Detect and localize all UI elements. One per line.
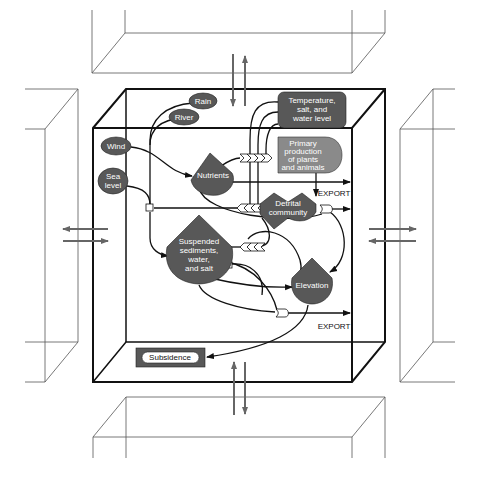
forcing-wind: Wind — [101, 137, 131, 155]
forcing-river: River — [169, 109, 199, 125]
exchange-arrows-right — [369, 229, 416, 241]
node-subsidence: Subsidence — [136, 348, 205, 367]
temperature-label-3: water level — [292, 114, 331, 123]
node-suspended-sediments: Suspended sediments, water, and salt — [166, 215, 232, 284]
nutrients-label: Nutrients — [197, 171, 229, 180]
export-label-bottom: EXPORT — [318, 322, 351, 331]
node-nutrients: Nutrients — [191, 153, 233, 195]
switch-left — [146, 204, 153, 211]
detrital-label-2: community — [269, 208, 308, 217]
suspended-label-4: and salt — [185, 264, 214, 273]
sea-level-label-2: level — [105, 181, 122, 190]
rain-label: Rain — [195, 97, 211, 106]
elevation-label: Elevation — [296, 281, 329, 290]
suspended-label-2: sediments, — [180, 246, 219, 255]
forcing-sea-level: Sea level — [98, 168, 128, 194]
gate-detrital-right — [320, 205, 332, 213]
suspended-label-1: Suspended — [179, 237, 219, 246]
gate-bottom-export — [276, 309, 288, 317]
exchange-arrows-bottom — [234, 362, 245, 415]
sea-level-label-1: Sea — [106, 172, 121, 181]
forcing-rain: Rain — [189, 93, 217, 109]
wind-label: Wind — [107, 142, 125, 151]
temperature-label-1: Temperature, — [288, 96, 335, 105]
export-label-top: EXPORT — [318, 189, 351, 198]
node-detrital-community: Detrital community — [260, 193, 316, 229]
gate-primary — [240, 154, 272, 162]
adjacent-box-right — [400, 89, 455, 382]
primary-label-4: and animals — [281, 163, 324, 172]
exchange-arrows-left — [63, 229, 108, 241]
river-label: River — [175, 113, 194, 122]
adjacent-box-bottom — [93, 397, 385, 458]
node-primary-production: Primary production of plants and animals — [278, 137, 342, 173]
central-compartment-cube — [93, 89, 385, 382]
temperature-label-2: salt, and — [297, 105, 327, 114]
subsidence-label: Subsidence — [149, 353, 191, 362]
detrital-label-1: Detrital — [275, 199, 301, 208]
adjacent-box-top — [92, 10, 385, 73]
gate-detrital-left — [237, 204, 262, 212]
suspended-label-3: water, — [187, 255, 209, 264]
node-temperature-salt-water: Temperature, salt, and water level — [278, 92, 346, 128]
adjacent-box-left — [25, 89, 78, 382]
node-elevation: Elevation — [292, 258, 333, 304]
exchange-arrows-top — [233, 54, 245, 106]
ecosystem-model-diagram: Rain River Wind Sea level Temperature, s… — [0, 0, 479, 484]
gate-suspended — [240, 243, 265, 251]
